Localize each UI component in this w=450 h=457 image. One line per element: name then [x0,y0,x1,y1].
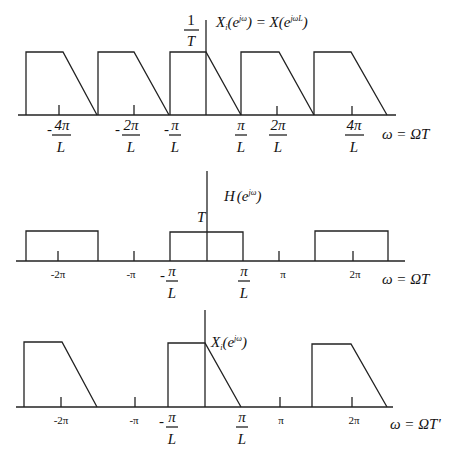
svg-text:-: - [160,267,165,283]
spectra-diagram: 1 T Xi(ejω) = X(ejωL) - 4π L - 2π L - π … [0,0,450,457]
svg-text:π: π [240,263,248,279]
tick-label-pi-L: π L [236,409,248,447]
trapezoid [241,52,314,115]
svg-text:π: π [168,409,176,425]
tick-label-neg-4pi-L: - 4π L [47,117,71,155]
tick-label-neg-2pi: -2π [54,414,69,426]
tick-label-pi-L: π L [238,263,250,301]
svg-text:4π: 4π [346,117,362,133]
svg-text:-: - [115,121,120,137]
tick-label-neg-pi-L: - π L [160,263,178,301]
tick-label-2pi: 2π [349,268,361,280]
trapezoid [26,52,97,115]
svg-text:L: L [167,285,176,301]
svg-text:L: L [126,139,135,155]
svg-text:L: L [170,139,179,155]
svg-text:L: L [236,139,245,155]
svg-text:π: π [238,409,246,425]
panel-title: H(ejω) [223,188,261,205]
tick-label-neg-pi: -π [126,268,136,280]
tick-label-pi-L: π L [235,117,247,155]
panel-title: Xi(ejω) = X(ejωL) [215,14,308,32]
svg-text:π: π [237,117,245,133]
tick-label-pi: π [278,414,284,426]
panel-upsampled-spectrum: 1 T Xi(ejω) = X(ejωL) - 4π L - 2π L - π … [18,12,431,155]
svg-text:L: L [56,139,65,155]
tick-label-neg-pi: -π [129,414,139,426]
svg-text:L: L [273,139,282,155]
svg-text:2π: 2π [270,117,286,133]
tick-label-neg-pi-L: - π L [164,117,181,155]
panel-lowpass-filter: T H(ejω) -2π -π π 2π - π L π L ω = ΩT [16,171,431,301]
panel-filtered-spectrum: Xi(ejω) -2π -π π 2π - π L π L ω = ΩT' [16,310,441,447]
svg-text:-: - [164,121,169,137]
tick-label-2pi: 2π [348,414,360,426]
passband-rect [315,231,388,261]
tick-label-pi: π [280,268,286,280]
svg-text:L: L [237,431,246,447]
panel-title: Xi(ejω) [210,334,247,352]
svg-text:2π: 2π [123,117,139,133]
axis-label: ω = ΩT' [390,416,441,432]
svg-text:L: L [239,285,248,301]
svg-text:π: π [168,263,176,279]
svg-text:-: - [159,413,164,429]
svg-text:L: L [349,139,358,155]
axis-label: ω = ΩT [382,126,431,142]
trapezoid [314,52,387,115]
tick-label-neg-pi-L: - π L [159,409,178,447]
y-label-den: T [187,33,197,49]
axis-label: ω = ΩT [382,271,431,287]
passband-rect [26,231,98,261]
svg-text:L: L [167,431,176,447]
tick-label-4pi-L: 4π L [345,117,364,155]
tick-label-neg-2pi: -2π [51,268,66,280]
svg-text:π: π [171,117,179,133]
tick-label-neg-2pi-L: - 2π L [115,117,140,155]
tick-label-2pi-L: 2π L [269,117,287,155]
trapezoid [312,344,387,407]
y-label: T [197,209,207,225]
svg-text:4π: 4π [54,117,70,133]
y-label-num: 1 [187,12,195,28]
svg-text:-: - [47,121,52,137]
